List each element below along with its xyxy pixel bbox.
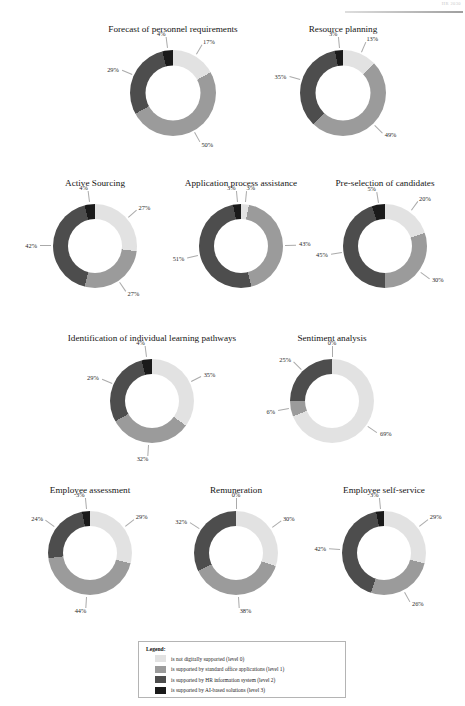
leader-line xyxy=(245,191,247,202)
slice-value-label: 29% xyxy=(430,513,442,520)
slice-value-label: 5% xyxy=(367,185,376,192)
chart-title: Pre-selection of candidates xyxy=(336,178,435,188)
legend-item-label: is not digitally supported (level 0) xyxy=(171,656,244,662)
donut-chart: Identification of individual learning pa… xyxy=(52,333,252,483)
chart-title: Forecast of personnel requirements xyxy=(108,24,237,34)
leader-line xyxy=(40,245,51,246)
leader-line xyxy=(278,409,289,412)
legend-rows: is not digitally supported (level 0)is s… xyxy=(145,654,339,695)
slice-value-label: 69% xyxy=(380,430,392,437)
donut-chart: Application process assistance3%43%51%3% xyxy=(162,178,320,328)
legend-item: is supported by AI-based solutions (leve… xyxy=(155,686,339,695)
page-header-rule xyxy=(345,11,463,13)
slice-value-label: 17% xyxy=(203,38,215,45)
donut-ring xyxy=(300,50,386,136)
slice-value-label: 25% xyxy=(279,356,291,363)
donut-segments xyxy=(199,204,283,288)
slice-value-label: 32% xyxy=(175,518,187,525)
donut-ring xyxy=(110,359,194,443)
slice-value-label: 3% xyxy=(76,491,85,498)
donut-chart: Resource planning13%49%35%3% xyxy=(258,24,428,174)
slice-value-label: 49% xyxy=(385,131,397,138)
donut-ring xyxy=(48,511,132,595)
leader-line xyxy=(329,549,340,550)
slice-value-label: 4% xyxy=(157,30,166,37)
legend-swatch-level-1 xyxy=(155,666,166,673)
leader-line xyxy=(85,498,87,509)
chart-title: Employee assessment xyxy=(50,485,130,495)
leader-line xyxy=(88,191,90,202)
legend-item: is supported by standard office applicat… xyxy=(155,665,339,674)
chart-title: Application process assistance xyxy=(185,178,297,188)
page-header-text: HR 2030 xyxy=(442,1,461,6)
leader-line xyxy=(187,255,198,258)
slice-value-label: 20% xyxy=(419,195,431,202)
donut-chart: Employee assessment29%44%24%3% xyxy=(14,485,166,635)
slice-value-label: 3% xyxy=(227,184,236,191)
slice-value-label: 3% xyxy=(370,491,379,498)
donut-segments xyxy=(290,359,374,443)
slice-value-label: 30% xyxy=(432,276,444,283)
slice-value-label: 30% xyxy=(283,515,295,522)
slice-value-label: 26% xyxy=(412,600,424,607)
slice-value-label: 35% xyxy=(204,371,216,378)
donut-ring xyxy=(342,511,426,595)
legend-swatch-level-3 xyxy=(155,687,166,694)
slice-value-label: 42% xyxy=(25,242,37,249)
slice-value-label: 50% xyxy=(201,141,213,148)
legend-box: Legend: is not digitally supported (leve… xyxy=(138,641,346,698)
slice-value-label: 0% xyxy=(328,339,337,346)
slice-value-label: 32% xyxy=(137,455,149,462)
slice-value-label: 27% xyxy=(139,204,151,211)
leader-line xyxy=(376,192,378,203)
donut-chart: Employee self-service29%26%42%3% xyxy=(308,485,460,635)
slice-value-label: 4% xyxy=(79,184,88,191)
leader-line xyxy=(332,346,333,357)
slice-value-label: 3% xyxy=(246,184,255,191)
leader-line xyxy=(289,77,300,81)
slice-value-label: 29% xyxy=(107,66,119,73)
figure-page: HR 2030 Forecast of personnel requiremen… xyxy=(0,0,465,706)
donut-segments xyxy=(48,511,132,595)
slice-value-label: 35% xyxy=(275,73,287,80)
slice-value-label: 38% xyxy=(240,607,252,614)
legend-item: is supported by HR information system (l… xyxy=(155,675,339,684)
slice-value-label: 0% xyxy=(232,491,241,498)
donut-ring xyxy=(199,204,283,288)
donut-segments xyxy=(130,50,216,136)
slice-value-label: 29% xyxy=(87,374,99,381)
donut-chart: Active Sourcing27%27%42%4% xyxy=(20,178,170,328)
donut-segments xyxy=(110,359,194,443)
leader-line xyxy=(331,252,342,254)
leader-line xyxy=(379,498,381,509)
legend-swatch-level-2 xyxy=(155,676,166,683)
legend-item: is not digitally supported (level 0) xyxy=(155,654,339,663)
slice-value-label: 44% xyxy=(75,607,87,614)
leader-line xyxy=(145,346,147,357)
chart-title: Resource planning xyxy=(309,24,378,34)
leader-line xyxy=(238,597,239,608)
donut-segments xyxy=(343,204,427,288)
donut-ring xyxy=(290,359,374,443)
donut-ring xyxy=(343,204,427,288)
legend-swatch-level-0 xyxy=(155,655,166,662)
legend-title: Legend: xyxy=(146,646,339,652)
leader-line xyxy=(285,244,296,245)
legend-item-label: is supported by AI-based solutions (leve… xyxy=(171,687,265,693)
slice-value-label: 24% xyxy=(31,515,43,522)
leader-line xyxy=(166,37,168,48)
slice-value-label: 43% xyxy=(299,240,311,247)
donut-chart: Sentiment analysis69%6%25%0% xyxy=(252,333,412,483)
donut-chart: Remuneration30%38%32%0% xyxy=(160,485,312,635)
donut-segments xyxy=(342,511,426,595)
chart-title: Identification of individual learning pa… xyxy=(68,333,236,343)
donut-chart: Pre-selection of candidates20%30%45%5% xyxy=(310,178,460,328)
donut-chart: Forecast of personnel requirements17%50%… xyxy=(78,24,268,174)
slice-value-label: 27% xyxy=(128,290,140,297)
chart-title: Employee self-service xyxy=(343,485,425,495)
slice-value-label: 6% xyxy=(266,408,275,415)
slice-value-label: 4% xyxy=(136,339,145,346)
legend-item-label: is supported by HR information system (l… xyxy=(171,677,275,683)
slice-value-label: 3% xyxy=(329,30,338,37)
slice-value-label: 45% xyxy=(316,251,328,258)
